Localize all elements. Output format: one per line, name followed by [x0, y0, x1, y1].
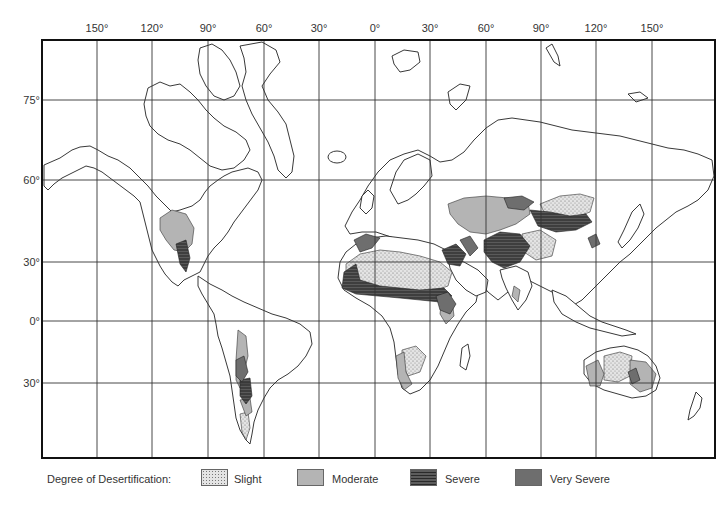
madagascar	[460, 344, 470, 370]
legend-label: Moderate	[332, 473, 378, 485]
greenland	[240, 42, 294, 178]
south-america	[198, 276, 312, 444]
moderate-swatch	[297, 469, 324, 486]
legend: Degree of Desertification: Slight Modera…	[0, 466, 728, 490]
legend-label: Very Severe	[550, 473, 610, 485]
very-severe-swatch	[515, 469, 542, 486]
iceland	[328, 151, 346, 163]
landmasses	[44, 42, 714, 444]
legend-title: Degree of Desertification:	[47, 473, 171, 485]
severe-swatch	[410, 469, 437, 486]
new-zealand	[688, 392, 702, 420]
southeast-asia	[552, 290, 636, 336]
legend-label: Severe	[445, 473, 480, 485]
slight-swatch	[201, 469, 228, 486]
world-map	[0, 0, 728, 466]
legend-label: Slight	[234, 473, 262, 485]
